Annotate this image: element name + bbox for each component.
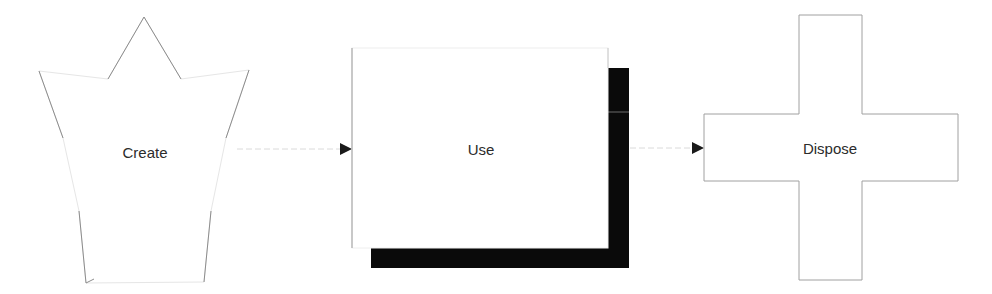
node-use[interactable]: Use bbox=[352, 48, 629, 268]
node-use-label: Use bbox=[468, 141, 495, 158]
node-create[interactable]: Create bbox=[39, 17, 249, 283]
arrowhead-icon bbox=[340, 143, 352, 155]
node-create-label: Create bbox=[122, 144, 167, 161]
edge-use-to-dispose bbox=[630, 142, 704, 154]
diagram-canvas: Create Use Dispose bbox=[0, 0, 992, 294]
arrowhead-icon bbox=[692, 142, 704, 154]
edge-create-to-use bbox=[237, 143, 352, 155]
node-dispose[interactable]: Dispose bbox=[704, 15, 958, 280]
node-dispose-label: Dispose bbox=[803, 140, 857, 157]
